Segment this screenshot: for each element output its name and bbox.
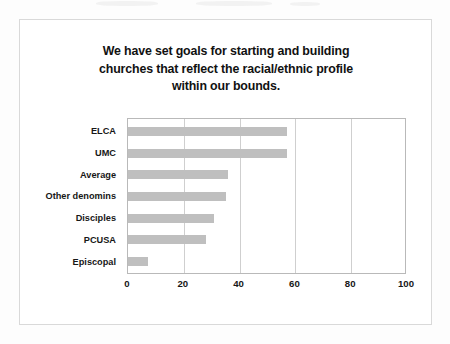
scanned-slide-page: We have set goals for starting and build… (0, 0, 450, 344)
x-tick-label: 40 (233, 278, 244, 289)
bar (128, 170, 228, 179)
category-label: UMC (20, 143, 122, 163)
category-label: ELCA (20, 121, 122, 141)
x-tick-label: 20 (177, 278, 188, 289)
bar (128, 214, 214, 223)
plot-area (127, 118, 406, 274)
bar (128, 235, 206, 244)
x-tick-label: 80 (345, 278, 356, 289)
category-label: Other denomins (20, 186, 122, 206)
scan-artifact (290, 2, 320, 6)
bar-row (128, 165, 405, 185)
category-axis-labels: ELCAUMCAverageOther denominsDisciplesPCU… (20, 118, 122, 274)
x-tick-label: 0 (124, 278, 129, 289)
bar-row (128, 230, 405, 250)
bar (128, 127, 287, 136)
category-label: Average (20, 165, 122, 185)
bar-row (128, 186, 405, 206)
x-tick-label: 100 (398, 278, 414, 289)
category-label: Disciples (20, 208, 122, 228)
bar (128, 149, 287, 158)
slide-card: We have set goals for starting and build… (19, 19, 432, 325)
category-label: PCUSA (20, 230, 122, 250)
bar-series (128, 119, 405, 273)
bar-row (128, 143, 405, 163)
x-tick-label: 60 (289, 278, 300, 289)
bar (128, 192, 226, 201)
bar (128, 257, 148, 266)
bar-row (128, 122, 405, 142)
category-label: Episcopal (20, 252, 122, 272)
scan-artifact (96, 1, 158, 6)
bar-row (128, 251, 405, 271)
bar-row (128, 208, 405, 228)
scan-artifact (196, 1, 272, 6)
value-axis-labels: 020406080100 (127, 278, 406, 294)
bar-chart: ELCAUMCAverageOther denominsDisciplesPCU… (20, 20, 433, 326)
